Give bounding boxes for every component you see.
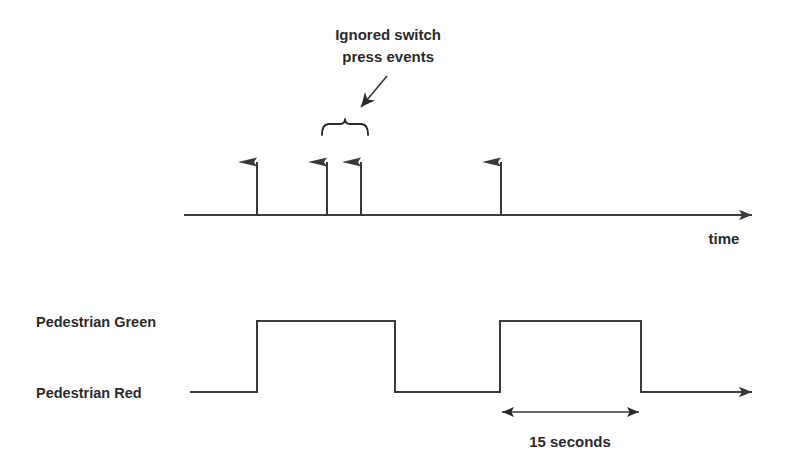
pedestrian-signal-waveform <box>190 321 752 392</box>
annotation-leader-arrow-icon <box>361 76 387 107</box>
pedestrian-green-label: Pedestrian Green <box>36 314 156 330</box>
figure-canvas: Ignored switch press events time Pedestr… <box>0 0 792 467</box>
annotation-line-1: Ignored switch <box>335 26 441 43</box>
timing-diagram: Ignored switch press events time Pedestr… <box>0 0 792 467</box>
green-duration-label: 15 seconds <box>529 433 611 450</box>
time-axis-label: time <box>709 230 740 247</box>
pedestrian-red-label: Pedestrian Red <box>36 385 142 401</box>
annotation-line-2: press events <box>342 48 434 65</box>
ignored-events-bracket-icon <box>322 119 368 135</box>
